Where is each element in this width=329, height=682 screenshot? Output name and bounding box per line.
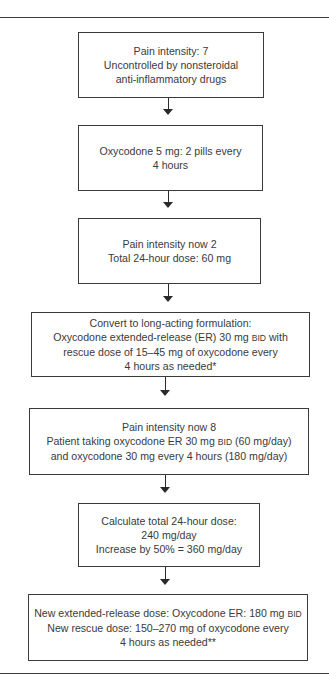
flow-step-7: New extended-release dose: Oxycodone ER:…	[28, 594, 308, 661]
step-1-line-3: anti-inflammatory drugs	[116, 72, 227, 86]
step-4-line-4: 4 hours as needed*	[125, 359, 217, 373]
step-5-line-1: Pain intensity now 8	[122, 420, 216, 434]
step-2-line-1: Oxycodone 5 mg: 2 pills every	[100, 144, 242, 158]
step-1-line-2: Uncontrolled by nonsteroidal	[104, 58, 238, 72]
flow-step-5: Pain intensity now 8 Patient taking oxyc…	[29, 408, 309, 475]
arrow-down-icon	[160, 377, 170, 397]
bottom-rule	[0, 673, 329, 674]
step-7-line-1: New extended-release dose: Oxycodone ER:…	[34, 606, 302, 621]
arrow-down-icon	[163, 284, 173, 302]
step-4-line-2: Oxycodone extended-release (ER) 30 mg BI…	[53, 330, 288, 345]
flow-step-6: Calculate total 24-hour dose: 240 mg/day…	[78, 503, 260, 567]
step-7-line-3: 4 hours as needed**	[120, 635, 216, 649]
flow-step-4: Convert to long-acting formulation: Oxyc…	[31, 312, 310, 377]
top-rule	[0, 17, 329, 18]
arrow-down-icon	[160, 567, 170, 586]
step-7-line-2: New rescue dose: 150–270 mg of oxycodone…	[47, 621, 288, 635]
step-6-line-3: Increase by 50% = 360 mg/day	[96, 542, 242, 556]
flow-step-3: Pain intensity now 2 Total 24-hour dose:…	[78, 218, 261, 284]
arrow-down-icon	[163, 98, 173, 115]
arrow-down-icon	[163, 191, 173, 209]
step-4-line-1: Convert to long-acting formulation:	[90, 316, 252, 330]
bid-abbrev: BID	[218, 437, 232, 447]
step-3-line-1: Pain intensity now 2	[122, 237, 216, 251]
step-2-line-2: 4 hours	[153, 158, 188, 172]
step-6-line-2: 240 mg/day	[141, 528, 196, 542]
step-4-line-3: rescue dose of 15–45 mg of oxycodone eve…	[63, 345, 277, 359]
step-3-line-2: Total 24-hour dose: 60 mg	[108, 251, 231, 265]
step-5-line-3: and oxycodone 30 mg every 4 hours (180 m…	[51, 449, 288, 463]
bid-abbrev: BID	[287, 609, 301, 619]
step-6-line-1: Calculate total 24-hour dose:	[101, 514, 236, 528]
arrow-down-icon	[160, 475, 170, 495]
bid-abbrev: BID	[252, 333, 266, 343]
flow-step-2: Oxycodone 5 mg: 2 pills every 4 hours	[78, 125, 263, 191]
step-1-line-1: Pain intensity: 7	[134, 44, 209, 58]
flow-step-1: Pain intensity: 7 Uncontrolled by nonste…	[78, 32, 264, 98]
step-5-line-2: Patient taking oxycodone ER 30 mg BID (6…	[46, 434, 291, 449]
